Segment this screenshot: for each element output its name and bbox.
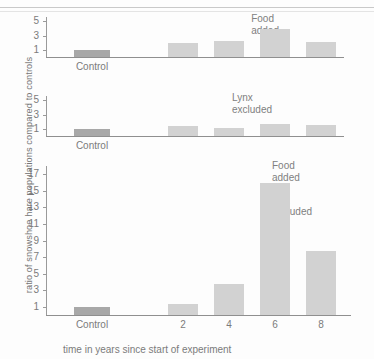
chart-figure: ratio of snowshoe hare populations compa… xyxy=(0,0,374,359)
top-rule-secondary xyxy=(0,11,374,12)
y-axis-tick-label: 15 xyxy=(21,185,39,196)
bar xyxy=(306,251,336,315)
y-axis-tick-label: 7 xyxy=(21,251,39,262)
bar xyxy=(260,183,290,315)
y-axis-tick-label: 5 xyxy=(21,268,39,279)
y-axis-tick xyxy=(43,257,46,258)
y-axis-tick-label: 1 xyxy=(21,301,39,312)
top-rule xyxy=(0,7,374,8)
bar xyxy=(214,41,244,57)
bar xyxy=(214,128,244,136)
y-axis-tick xyxy=(43,191,46,192)
y-axis-tick-label: 1 xyxy=(21,44,39,55)
bar xyxy=(260,124,290,136)
y-axis-tick-label: 11 xyxy=(21,218,39,229)
y-axis-tick xyxy=(43,241,46,242)
y-axis-tick xyxy=(43,224,46,225)
y-axis-tick xyxy=(43,307,46,308)
x-axis-tick-label: Control xyxy=(57,319,127,330)
x-axis-tick-label: Control xyxy=(57,140,127,151)
y-axis-tick xyxy=(43,36,46,37)
y-axis-tick xyxy=(43,50,46,51)
y-axis-line xyxy=(46,96,47,137)
x-axis-line xyxy=(46,57,344,58)
y-axis-tick-label: 9 xyxy=(21,235,39,246)
y-axis-tick-label: 5 xyxy=(21,94,39,105)
y-axis-tick-label: 1 xyxy=(21,123,39,134)
y-axis-tick xyxy=(43,115,46,116)
bar xyxy=(168,43,198,57)
y-axis-tick xyxy=(43,174,46,175)
y-axis-tick xyxy=(43,290,46,291)
bar xyxy=(74,129,110,136)
x-axis-tick-label: 8 xyxy=(286,319,356,330)
bar xyxy=(74,50,110,57)
x-axis-line xyxy=(46,315,351,316)
y-axis-line xyxy=(46,17,47,58)
y-axis-line xyxy=(46,166,47,316)
x-axis-line xyxy=(46,136,344,137)
x-axis-tick-label: Control xyxy=(57,61,127,72)
y-axis-tick-label: 3 xyxy=(21,284,39,295)
bar xyxy=(306,125,336,136)
bar xyxy=(306,42,336,57)
x-axis-label: time in years since start of experiment xyxy=(63,344,231,355)
y-axis-tick xyxy=(43,207,46,208)
y-axis-tick-label: 5 xyxy=(21,15,39,26)
y-axis-tick-label: 13 xyxy=(21,201,39,212)
bar xyxy=(260,29,290,57)
bar xyxy=(168,126,198,136)
y-axis-tick-label: 17 xyxy=(21,168,39,179)
panel-title-lynx-excluded: Lynx excluded xyxy=(232,92,272,115)
y-axis-tick-label: 3 xyxy=(21,30,39,41)
y-axis-tick-label: 3 xyxy=(21,109,39,120)
bar xyxy=(168,304,198,315)
y-axis-tick xyxy=(43,21,46,22)
y-axis-tick xyxy=(43,129,46,130)
y-axis-tick xyxy=(43,100,46,101)
y-axis-tick xyxy=(43,274,46,275)
bar xyxy=(74,307,110,315)
bar xyxy=(214,284,244,315)
